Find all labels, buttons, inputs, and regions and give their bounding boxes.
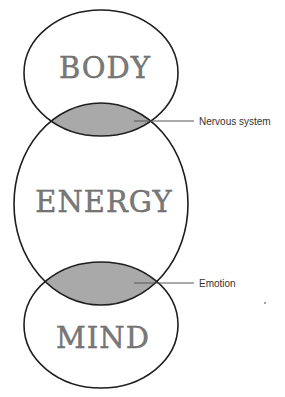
mind-label: MIND: [56, 321, 150, 355]
energy-label: ENERGY: [35, 185, 172, 219]
diagram-canvas: BODY ENERGY MIND Nervous system Emotion: [0, 0, 285, 397]
emotion-callout: Emotion: [199, 278, 236, 289]
venn-diagram: BODY ENERGY MIND Nervous system Emotion: [0, 0, 285, 397]
scan-artifact: [264, 302, 266, 304]
nervous-system-callout: Nervous system: [199, 116, 271, 127]
body-label: BODY: [59, 51, 151, 85]
